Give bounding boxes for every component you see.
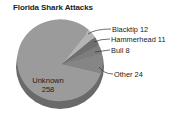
label-blacktip: Blacktip 12 — [112, 25, 148, 34]
label-other: Other 24 — [114, 70, 143, 79]
label-hammerhead: Hammerhead 11 — [111, 35, 166, 44]
pie-chart: Blacktip 12 Hammerhead 11 Bull 8 Other 2… — [0, 0, 186, 123]
label-bull: Bull 8 — [111, 46, 130, 55]
label-unknown-name: Unknown — [32, 76, 64, 85]
label-unknown-value: 258 — [42, 85, 55, 94]
